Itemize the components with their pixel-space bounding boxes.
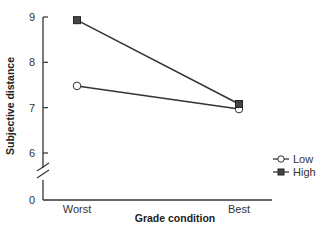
series-line-high [77,20,239,104]
y-tick-label: 8 [29,56,35,68]
y-tick-label: 6 [29,147,35,159]
legend: LowHigh [273,153,316,178]
y-tick-label: 9 [29,11,35,23]
legend-item-high: High [273,166,316,178]
series-line-low [77,86,239,109]
legend-square-marker-icon [278,169,284,175]
y-axis-title: Subjective distance [4,57,16,155]
x-tick-label: Worst [63,203,92,215]
legend-item-low: Low [273,153,313,165]
series-lines [77,20,239,109]
data-point-high [74,17,81,24]
line-chart: 06789 WorstBest Grade condition Subjecti… [0,0,325,233]
y-tick-label: 0 [29,194,35,206]
legend-label: Low [293,153,313,165]
legend-circle-marker-icon [278,156,284,162]
data-point-low [73,82,81,90]
x-axis-title: Grade condition [135,212,216,224]
x-tick-label: Best [228,203,250,215]
legend-label: High [293,166,316,178]
axis-break-mark-2 [37,170,49,178]
data-point-high [236,101,243,108]
y-tick-label: 7 [29,102,35,114]
